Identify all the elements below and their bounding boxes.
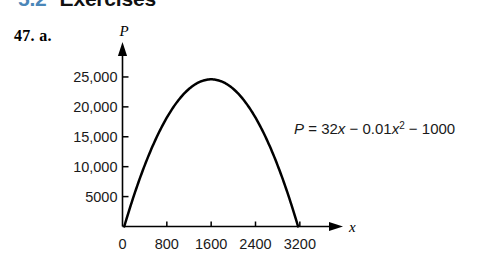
x-tick-label: 2400 [239,236,271,252]
x-axis-group: x 0800160024003200 [118,219,356,252]
y-tick-label: 10,000 [73,159,117,175]
x-axis-label: x [348,219,356,235]
x-tick-label: 0 [118,236,126,252]
y-axis-group: P 500010,00015,00020,00025,000 [73,23,129,227]
parabola-curve [124,79,298,226]
x-tick-label: 3200 [284,236,316,252]
y-tick-label: 25,000 [73,69,117,85]
x-axis-arrowhead [329,222,343,231]
equation-annotation: P = 32x − 0.01x2 − 1000 [294,120,455,137]
x-tick-label: 1600 [195,236,227,252]
y-tick-label: 5000 [85,189,117,205]
textbook-figure-page: 5.2 Exercises 47. a. P 500010,00015,0002… [0,0,499,263]
y-tick-label: 15,000 [73,129,117,145]
y-tick-label: 20,000 [73,99,117,115]
x-axis-tick-labels: 0800160024003200 [118,236,316,252]
graph-figure: P 500010,00015,00020,00025,000 x 0800160… [0,0,499,263]
y-axis-arrowhead [118,42,127,56]
y-axis-label: P [119,23,129,39]
x-tick-label: 800 [155,236,179,252]
y-axis-tick-labels: 500010,00015,00020,00025,000 [73,69,117,205]
y-axis-ticks [123,77,129,197]
graph-svg: P 500010,00015,00020,00025,000 x 0800160… [0,0,499,263]
